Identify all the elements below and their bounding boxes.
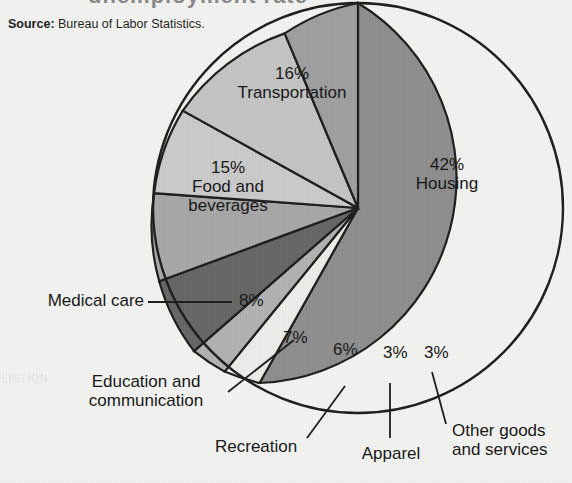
slice-value-food-and-beverages: 15%	[150, 158, 306, 177]
slice-value-medical-care: 8%	[239, 291, 264, 310]
slice-value-apparel: 3%	[383, 343, 408, 362]
slice-value-housing: 42%	[382, 155, 512, 174]
slice-label-transportation: 16% Transportation	[212, 64, 372, 102]
source-label: Source:	[8, 17, 55, 31]
slice-label-housing: 42% Housing	[382, 155, 512, 193]
slice-name-transportation: Transportation	[212, 83, 372, 102]
slice-name-education-and-communication-line2: communication	[62, 391, 230, 410]
slice-name-medical-care: Medical care	[16, 291, 144, 310]
slice-value-education-and-communication: 7%	[283, 328, 308, 347]
slice-name-food-and-beverages-line2: beverages	[150, 196, 306, 215]
slice-name-other-goods-and-services: Other goods and services	[452, 421, 547, 459]
chart-page: unemployment rate LISTIQN Source: Bureau…	[0, 0, 572, 483]
slice-value-other-goods-and-services: 3%	[424, 343, 449, 362]
slice-label-food-and-beverages: 15% Food and beverages	[150, 158, 306, 215]
slice-name-recreation: Recreation	[215, 437, 297, 456]
slice-name-education-and-communication: Education and communication	[62, 372, 230, 410]
source-note: Source: Bureau of Labor Statistics.	[8, 17, 205, 31]
slice-name-education-and-communication-line1: Education and	[62, 372, 230, 391]
slice-name-apparel: Apparel	[345, 444, 437, 463]
slice-name-other-goods-and-services-line2: and services	[452, 440, 547, 459]
slice-name-other-goods-and-services-line1: Other goods	[452, 421, 547, 440]
slice-name-food-and-beverages-line1: Food and	[150, 177, 306, 196]
source-text: Bureau of Labor Statistics.	[55, 17, 205, 31]
slice-name-housing: Housing	[382, 174, 512, 193]
slice-value-recreation: 6%	[333, 340, 358, 359]
slice-value-transportation: 16%	[212, 64, 372, 83]
